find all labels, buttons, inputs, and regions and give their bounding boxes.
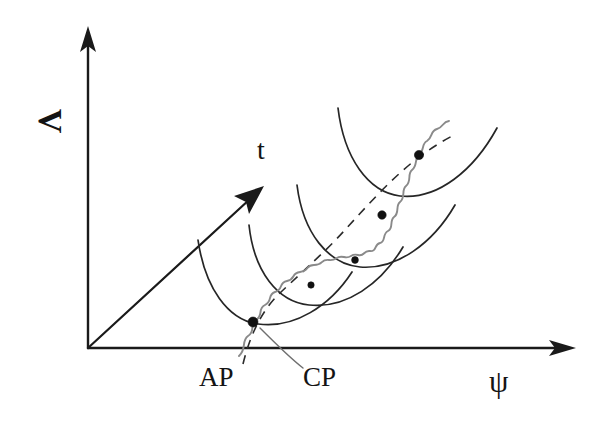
y-axis-label: V	[33, 101, 67, 141]
state-dot-ap	[248, 317, 258, 327]
crossing-point-label: CP	[303, 364, 336, 391]
state-markers-group	[248, 150, 424, 327]
potential-energy-diagram: V ψ t AP CP	[0, 0, 614, 429]
time-arrow-group	[88, 186, 264, 348]
state-dot-2	[308, 282, 314, 288]
adiabatic-point-label: AP	[199, 364, 234, 391]
potential-arc-family	[198, 108, 497, 325]
trajectory-guide-dashed	[243, 134, 456, 364]
axes-group	[80, 26, 576, 356]
time-arrow-line	[88, 199, 250, 348]
time-arrow-label: t	[257, 136, 265, 164]
state-dot-4	[378, 211, 386, 219]
state-dot-3	[352, 257, 359, 264]
state-dot-5	[414, 150, 423, 159]
x-axis-label: ψ	[489, 366, 508, 397]
